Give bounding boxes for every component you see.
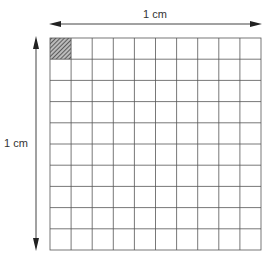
grid-diagram <box>0 0 268 269</box>
grid-lines <box>50 38 261 250</box>
horizontal-arrow <box>49 21 262 27</box>
vertical-arrow <box>33 36 39 251</box>
shaded-cell <box>50 38 71 59</box>
left-dimension-label: 1 cm <box>4 137 28 149</box>
top-dimension-label: 1 cm <box>143 8 167 20</box>
